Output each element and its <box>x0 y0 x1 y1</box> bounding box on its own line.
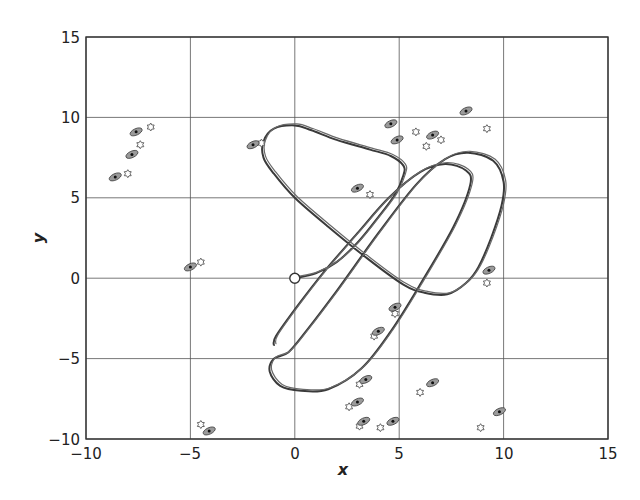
x-tick-label: 0 <box>290 445 300 463</box>
true-position-star-marker <box>197 258 204 266</box>
trajectory-path-secondary <box>264 124 506 390</box>
y-axis-label: y <box>29 232 48 243</box>
estimate-ellipse-marker <box>384 118 398 129</box>
estimate-ellipse-marker <box>425 377 439 388</box>
x-tick-label: 5 <box>394 445 404 463</box>
estimate-ellipse-marker <box>350 183 364 194</box>
estimate-ellipse-marker <box>482 265 496 276</box>
scatter-markers <box>108 105 507 436</box>
true-position-star-marker <box>477 424 484 432</box>
x-axis-label: x <box>337 460 349 479</box>
estimate-ellipse-marker <box>390 134 404 145</box>
x-tick-label: −5 <box>179 445 201 463</box>
estimate-ellipse-marker <box>129 126 143 137</box>
true-position-star-marker <box>124 170 131 178</box>
x-tick-label: 15 <box>598 445 617 463</box>
y-tick-label: 10 <box>61 109 80 127</box>
start-circle-marker <box>290 273 300 283</box>
plot-area: −10 −5 0 5 10 15 −10 −5 0 5 10 15 x y <box>0 0 640 500</box>
true-position-star-marker <box>147 123 154 131</box>
estimate-ellipse-marker <box>108 171 122 182</box>
chart: −10 −5 0 5 10 15 −10 −5 0 5 10 15 x y <box>0 0 640 500</box>
true-position-star-marker <box>377 424 384 432</box>
estimate-ellipse-marker <box>246 139 260 150</box>
true-position-star-marker <box>137 141 144 149</box>
y-tick-label: 5 <box>70 189 80 207</box>
true-position-star-marker <box>423 142 430 150</box>
x-tick-label: 10 <box>494 445 513 463</box>
true-position-star-marker <box>438 136 445 144</box>
estimate-ellipse-marker <box>125 149 139 160</box>
estimate-ellipse-marker <box>359 374 373 385</box>
trajectory-line <box>262 124 506 392</box>
true-position-star-marker <box>197 421 204 429</box>
estimate-ellipse-marker <box>459 105 473 116</box>
estimate-ellipse-marker <box>492 406 506 417</box>
trajectory-path <box>262 125 504 391</box>
true-position-star-marker <box>417 388 424 396</box>
tick-labels: −10 −5 0 5 10 15 −10 −5 0 5 10 15 <box>48 29 617 463</box>
true-position-star-marker <box>412 128 419 136</box>
estimate-ellipse-marker <box>386 416 400 427</box>
y-tick-label: −10 <box>48 431 80 449</box>
y-tick-label: 0 <box>70 270 80 288</box>
estimate-ellipse-marker <box>350 396 364 407</box>
estimate-ellipse-marker <box>371 326 385 337</box>
true-position-star-marker <box>483 279 490 287</box>
y-tick-label: 15 <box>61 29 80 47</box>
estimate-ellipse-marker <box>356 416 370 427</box>
true-position-star-marker <box>483 125 490 133</box>
y-tick-label: −5 <box>58 350 80 368</box>
